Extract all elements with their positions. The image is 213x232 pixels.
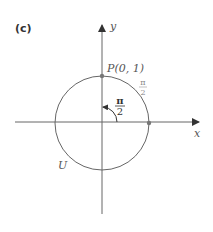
point-p (100, 74, 104, 78)
point-p-label: P(0, 1) (106, 62, 144, 75)
angle-label-num: π (116, 95, 123, 106)
arc-length-den: 2 (140, 88, 145, 97)
arc-length-num: π (140, 78, 145, 87)
panel-label: (c) (15, 22, 32, 35)
y-axis-label: y (109, 20, 117, 33)
angle-label-den: 2 (117, 106, 123, 117)
circle-label: U (58, 159, 68, 172)
unit-circle-diagram: (c) x y P(0, 1) π 2 π 2 U (0, 0, 213, 232)
angle-arc (103, 107, 117, 122)
x-axis-label: x (194, 127, 201, 140)
point-1-0 (147, 121, 151, 125)
